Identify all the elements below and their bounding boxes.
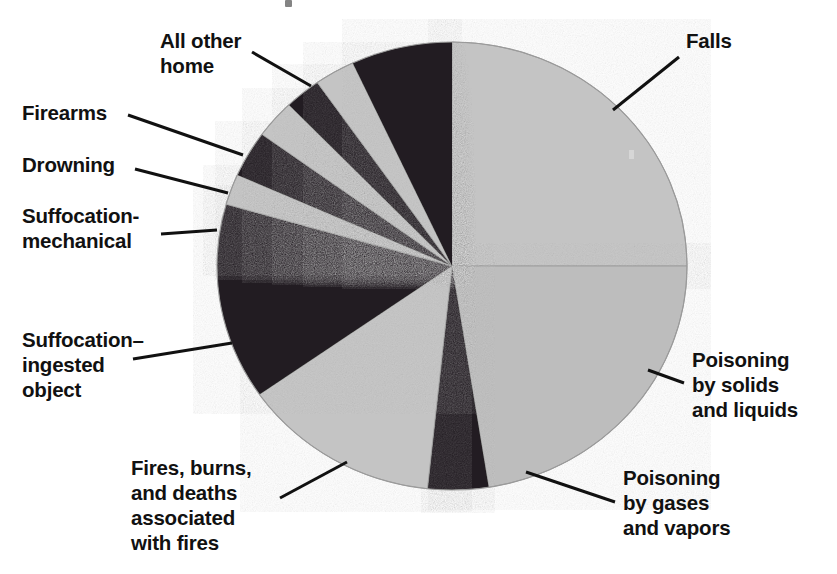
leader-line-falls <box>613 57 679 110</box>
scan-artifact-streak <box>629 150 634 159</box>
slice-label-falls: Falls <box>686 28 732 53</box>
slice-label-firearms: Firearms <box>22 100 107 125</box>
slice-label-all-other-home: All other home <box>160 28 241 78</box>
slice-label-poisoning-solids-and-liquids: Poisoning by solids and liquids <box>692 347 798 422</box>
leader-line-poisoning-gases <box>526 472 615 502</box>
leader-line-firearms <box>128 115 243 155</box>
leader-line-drowning <box>135 169 228 193</box>
scan-artifact-speck <box>285 0 292 7</box>
leader-line-suffocation-ingested <box>133 343 232 359</box>
slice-label-suffocation-mechanical: Suffocation- mechanical <box>22 203 139 253</box>
slice-label-fires-burns-deaths: Fires, burns, and deaths associated with… <box>131 455 251 555</box>
leader-line-suffocation-mechanical <box>161 230 217 234</box>
slice-label-suffocation-ingested-object: Suffocation– ingested object <box>22 327 144 402</box>
pie-slice <box>452 42 687 266</box>
pie-chart-figure: Falls Poisoning by solids and liquids Po… <box>0 0 837 574</box>
leader-line-all-other-home <box>252 52 311 86</box>
pie-slice <box>452 266 687 487</box>
leader-line-fires-burns <box>280 462 347 498</box>
slice-label-drowning: Drowning <box>22 152 115 177</box>
slice-label-poisoning-gases-and-vapors: Poisoning by gases and vapors <box>623 465 730 540</box>
pie-slices-group <box>217 42 687 490</box>
